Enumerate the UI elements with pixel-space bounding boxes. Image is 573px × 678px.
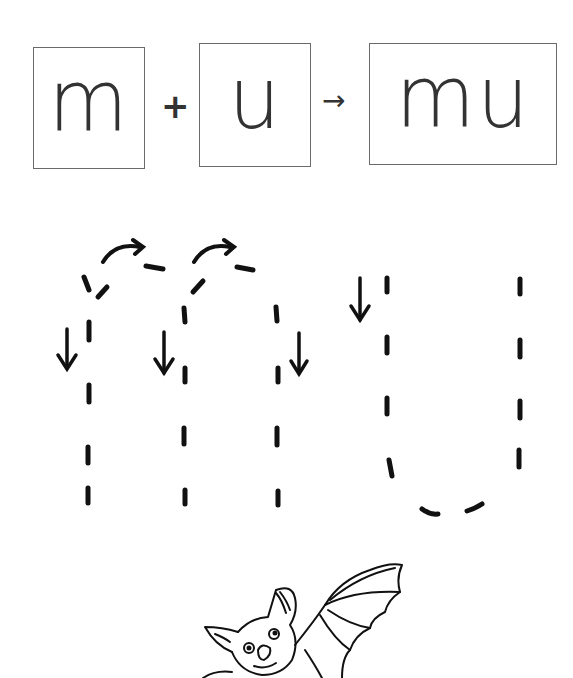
tracing-area: [0, 0, 573, 678]
bat-illustration: [203, 564, 402, 678]
dashed-m-guide: [84, 266, 278, 505]
down-arrow-icon: [155, 332, 173, 373]
curved-arrow-icon: [103, 240, 143, 262]
down-arrow-icon: [351, 278, 369, 320]
down-arrow-icon: [291, 333, 307, 374]
curved-arrow-icon: [194, 240, 234, 262]
down-arrow-icon: [58, 329, 76, 369]
dashed-u-guide: [387, 278, 520, 514]
